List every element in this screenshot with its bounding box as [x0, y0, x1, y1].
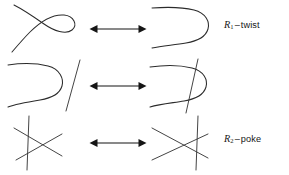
r3-equivalence-arrow	[88, 114, 148, 172]
r2-right-diagram	[148, 57, 222, 115]
r1-left-diagram	[4, 0, 90, 58]
r1-right-diagram	[148, 0, 222, 58]
r3-right-diagram	[148, 114, 222, 172]
move-row-r1: R1–twist	[0, 0, 289, 58]
move-row-r3: R3–slide	[0, 114, 289, 172]
move-row-r2: R2–poke	[0, 57, 289, 115]
label-r1-dash: –	[234, 20, 241, 30]
arrow-head-right	[139, 139, 147, 147]
r2-equivalence-arrow	[88, 57, 148, 115]
r2-left-diagram	[4, 57, 90, 115]
arrow-head-right	[139, 25, 147, 33]
arrow-head-left	[90, 139, 98, 147]
arrow-head-right	[139, 82, 147, 90]
r1-equivalence-arrow	[88, 0, 148, 58]
arrow-head-left	[90, 25, 98, 33]
reidemeister-moves-figure: R1–twist	[0, 0, 289, 175]
arrow-head-left	[90, 82, 98, 90]
r3-left-diagram	[4, 114, 90, 172]
label-r1: R1–twist	[224, 19, 288, 30]
label-r1-name: twist	[241, 20, 260, 30]
